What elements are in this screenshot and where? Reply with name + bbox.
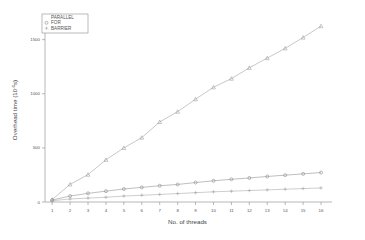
data-point-barrier — [194, 191, 197, 194]
x-tick-label: 13 — [265, 208, 270, 213]
y-axis-title: Overhead time (10-6s) — [11, 80, 18, 140]
data-point-barrier — [158, 193, 161, 196]
legend-label-for: FOR — [51, 20, 61, 25]
x-tick-label: 11 — [229, 208, 234, 213]
chart-canvas: 05001000150012345678910111213141516No. o… — [0, 0, 365, 240]
x-tick-label: 1 — [51, 208, 54, 213]
x-tick-label: 9 — [194, 208, 197, 213]
series-line-barrier — [52, 188, 321, 201]
data-point-barrier — [140, 194, 143, 197]
data-point-barrier — [248, 189, 251, 192]
data-point-barrier — [301, 187, 304, 190]
data-point-barrier — [319, 186, 322, 189]
data-point-barrier — [230, 189, 233, 192]
legend-label-barrier: BARRIER — [51, 26, 72, 31]
series-line-for — [52, 173, 321, 200]
x-tick-label: 2 — [69, 208, 72, 213]
y-tick-label: 1000 — [30, 91, 40, 96]
data-point-barrier — [212, 190, 215, 193]
x-axis-title: No. of threads — [168, 218, 207, 225]
x-tick-label: 8 — [176, 208, 179, 213]
data-point-barrier — [122, 194, 125, 197]
data-point-barrier — [68, 197, 71, 200]
y-tick-label: 1500 — [30, 37, 40, 42]
x-tick-label: 14 — [283, 208, 288, 213]
x-tick-label: 3 — [87, 208, 90, 213]
y-tick-label: 0 — [38, 200, 41, 205]
data-point-barrier — [176, 192, 179, 195]
x-tick-label: 5 — [123, 208, 126, 213]
x-tick-label: 10 — [211, 208, 216, 213]
y-tick-label: 500 — [33, 145, 41, 150]
x-tick-label: 6 — [141, 208, 144, 213]
data-point-barrier — [266, 188, 269, 191]
data-point-barrier — [104, 196, 107, 199]
series-line-parallel — [52, 26, 321, 200]
data-point-parallel — [319, 24, 323, 28]
legend-label-parallel: PARALLEL — [51, 15, 74, 20]
data-point-barrier — [283, 188, 286, 191]
data-point-barrier — [86, 196, 89, 199]
chart-figure: 05001000150012345678910111213141516No. o… — [0, 0, 365, 240]
x-tick-label: 15 — [301, 208, 306, 213]
x-tick-label: 16 — [319, 208, 324, 213]
x-tick-label: 12 — [247, 208, 252, 213]
x-tick-label: 7 — [158, 208, 161, 213]
x-tick-label: 4 — [105, 208, 108, 213]
